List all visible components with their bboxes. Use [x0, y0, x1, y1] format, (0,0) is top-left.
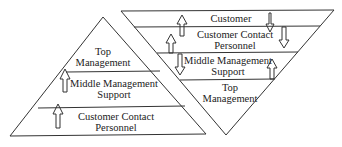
label-line: Personnel: [70, 122, 162, 133]
right-level-middle-management: Middle Management Support: [184, 55, 272, 77]
up-arrow-icon: [177, 15, 187, 36]
label-line: Top: [200, 82, 260, 93]
label-line: Personnel: [190, 40, 280, 51]
up-arrow-icon: [166, 34, 176, 53]
right-divider-1: [134, 26, 320, 27]
label-line: Top: [73, 46, 133, 57]
label-line: Support: [184, 66, 272, 77]
label-line: Middle Management: [68, 78, 160, 89]
label-line: Management: [73, 57, 133, 68]
left-level-top-management: Top Management: [73, 46, 133, 68]
right-level-customer: Customer: [196, 13, 266, 24]
right-divider-2: [157, 52, 298, 53]
organization-pyramids-diagram: Top Management Middle Management Support…: [0, 0, 342, 147]
label-line: Customer Contact: [70, 111, 162, 122]
right-level-top-management: Top Management: [200, 82, 260, 104]
label-line: Customer: [196, 13, 266, 24]
label-line: Management: [200, 93, 260, 104]
down-arrow-icon: [279, 27, 289, 48]
right-divider-3: [180, 79, 275, 80]
right-level-customer-contact: Customer Contact Personnel: [190, 29, 280, 51]
diagram-shapes: [0, 0, 342, 147]
label-line: Middle Management: [184, 55, 272, 66]
left-level-customer-contact: Customer Contact Personnel: [70, 111, 162, 133]
label-line: Support: [68, 89, 160, 100]
left-level-middle-management: Middle Management Support: [68, 78, 160, 100]
left-divider-1: [66, 71, 160, 72]
label-line: Customer Contact: [190, 29, 280, 40]
